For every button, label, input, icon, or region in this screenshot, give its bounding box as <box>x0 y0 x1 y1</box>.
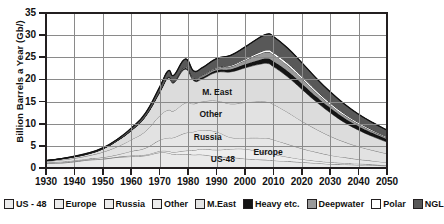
legend-item-russia[interactable]: Russia <box>104 199 146 209</box>
annotation-m-east: M. East <box>202 88 232 97</box>
legend-swatch-icon <box>54 199 64 209</box>
y-tick-label-35: 35 <box>10 8 36 18</box>
gridline-v-2010 <box>273 13 274 168</box>
legend-label: Other <box>164 199 188 209</box>
legend-swatch-icon <box>104 199 114 209</box>
legend-label: Europe <box>66 199 97 209</box>
y-tick-label-20: 20 <box>10 74 36 84</box>
legend-swatch-icon <box>152 199 162 209</box>
gridline-v-2040 <box>359 13 360 168</box>
x-tick-1940 <box>74 169 76 175</box>
legend-swatch-icon <box>371 199 381 209</box>
legend-item-europe[interactable]: Europe <box>54 199 97 209</box>
y-tick-label-30: 30 <box>10 30 36 40</box>
y-tick-15 <box>39 101 46 103</box>
legend-label: US - 48 <box>16 199 47 209</box>
legend-item-polar[interactable]: Polar <box>371 199 406 209</box>
x-tick-1950 <box>102 169 104 175</box>
gridline-v-1970 <box>160 13 161 168</box>
gridline-v-2000 <box>245 13 246 168</box>
legend-swatch-icon <box>413 199 423 209</box>
x-tick-1990 <box>216 169 218 175</box>
x-tick-2010 <box>273 169 275 175</box>
x-tick-1960 <box>130 169 132 175</box>
x-tick-2000 <box>244 169 246 175</box>
y-tick-label-25: 25 <box>10 52 36 62</box>
y-tick-25 <box>39 56 46 58</box>
legend-item-deepwater[interactable]: Deepwater <box>307 199 365 209</box>
x-tick-label-2050: 2050 <box>367 176 407 187</box>
x-tick-1930 <box>45 169 47 175</box>
x-tick-2050 <box>386 169 388 175</box>
y-tick-30 <box>39 34 46 36</box>
legend-label: Heavy etc. <box>255 199 300 209</box>
x-tick-1980 <box>187 169 189 175</box>
legend-item-other[interactable]: Other <box>152 199 188 209</box>
y-tick-label-15: 15 <box>10 97 36 107</box>
x-tick-2020 <box>301 169 303 175</box>
gridline-v-2030 <box>330 13 331 168</box>
y-tick-20 <box>39 79 46 81</box>
legend-item-heavy-etc-[interactable]: Heavy etc. <box>243 199 300 209</box>
y-tick-label-5: 5 <box>10 141 36 151</box>
legend-swatch-icon <box>4 199 14 209</box>
legend-swatch-icon <box>195 199 205 209</box>
gridline-v-1980 <box>188 13 189 168</box>
legend-label: NGL <box>425 199 444 209</box>
gridline-v-1960 <box>131 13 132 168</box>
y-tick-5 <box>39 145 46 147</box>
x-tick-2030 <box>329 169 331 175</box>
gridline-v-1940 <box>74 13 75 168</box>
y-tick-label-0: 0 <box>10 163 36 173</box>
x-tick-1970 <box>159 169 161 175</box>
legend-swatch-icon <box>243 199 253 209</box>
y-tick-35 <box>39 12 46 14</box>
annotation-europe: Europe <box>253 148 282 157</box>
chart-legend: US - 48EuropeRussiaOtherM.EastHeavy etc.… <box>4 196 404 211</box>
gridline-v-2020 <box>302 13 303 168</box>
x-tick-2040 <box>358 169 360 175</box>
annotation-russia: Russia <box>194 133 222 142</box>
y-tick-label-10: 10 <box>10 119 36 129</box>
plot-border-right <box>386 12 388 169</box>
annotation-other: Other <box>199 110 222 119</box>
legend-item-us-48[interactable]: US - 48 <box>4 199 47 209</box>
plot-area: M. EastOtherRussiaEuropeUS-48 <box>46 13 387 168</box>
y-tick-10 <box>39 123 46 125</box>
legend-label: Russia <box>116 199 146 209</box>
gridline-v-1950 <box>103 13 104 168</box>
legend-label: M.East <box>207 199 236 209</box>
legend-item-ngl[interactable]: NGL <box>413 199 444 209</box>
legend-item-m-east[interactable]: M.East <box>195 199 236 209</box>
legend-label: Deepwater <box>319 199 365 209</box>
legend-label: Polar <box>383 199 406 209</box>
plot-border-top <box>45 12 388 14</box>
legend-swatch-icon <box>307 199 317 209</box>
annotation-us-48: US-48 <box>211 155 235 164</box>
